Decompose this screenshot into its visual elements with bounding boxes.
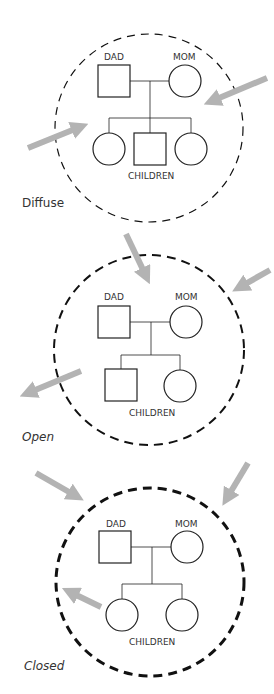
child-male: [134, 133, 166, 165]
diagram-open: DAD MOM CHILDREN Open: [22, 234, 270, 445]
child-female: [164, 370, 196, 402]
child-female: [93, 133, 125, 165]
mom-circle: [170, 306, 202, 338]
child-female: [106, 599, 138, 631]
caption-diffuse: Diffuse: [22, 196, 64, 210]
dad-square: [98, 65, 130, 97]
children-label: CHILDREN: [129, 408, 175, 418]
mom-label: MOM: [175, 519, 198, 529]
mom-circle: [169, 65, 201, 97]
arrow-out-icon: [28, 371, 81, 393]
arrow-in-icon: [28, 127, 80, 148]
family-boundaries-figure: DAD MOM CHILDREN Diffuse DAD MOM CHILDRE…: [0, 0, 274, 694]
child-female: [166, 599, 198, 631]
dad-label: DAD: [104, 292, 124, 302]
arrow-in-icon: [212, 78, 267, 101]
caption-closed: Closed: [24, 659, 65, 673]
boundary-circle: [55, 34, 243, 222]
mom-circle: [171, 531, 203, 563]
children-label: CHILDREN: [129, 637, 175, 647]
children-label: CHILDREN: [128, 171, 174, 181]
mom-label: MOM: [175, 292, 198, 302]
caption-open: Open: [22, 430, 54, 444]
child-female: [175, 133, 207, 165]
mom-label: MOM: [173, 52, 196, 62]
diagram-diffuse: DAD MOM CHILDREN Diffuse: [22, 34, 267, 222]
arrow-blocked-icon: [227, 463, 248, 498]
dad-square: [99, 531, 131, 563]
child-male: [105, 369, 137, 401]
dad-square: [98, 306, 130, 338]
arrow-blocked-icon: [36, 473, 76, 496]
dad-label: DAD: [106, 519, 126, 529]
arrow-in-icon: [240, 270, 270, 287]
boundary-circle: [56, 488, 244, 676]
dad-label: DAD: [104, 52, 124, 62]
diagram-closed: DAD MOM CHILDREN Closed: [24, 463, 248, 676]
arrow-blocked-out-icon: [70, 592, 101, 607]
